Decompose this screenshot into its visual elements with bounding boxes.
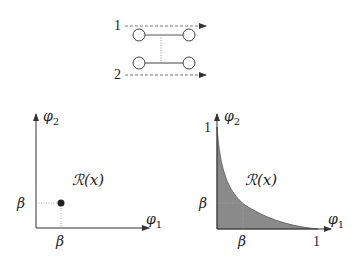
left-region-point [58,200,65,207]
right-x-tick-beta: β [237,233,246,249]
node-2a [133,57,145,69]
left-x-tick-beta: β [55,233,64,249]
node-1b [183,29,195,41]
line-2-label: 2 [114,67,121,82]
right-y-tick-one: 1 [204,120,211,135]
right-y-axis-label: φ2 [224,108,240,127]
right-x-tick-one: 1 [313,234,320,249]
left-region-label: ℛ(x) [72,171,104,189]
left-plot: φ2 φ1 β β ℛ(x) [16,108,162,249]
left-x-axis-label: φ1 [146,211,162,230]
right-y-tick-beta: β [198,195,207,211]
two-line-diagram: 1 2 [114,18,206,82]
node-2b [183,57,195,69]
left-y-tick-beta: β [16,195,25,211]
right-plot: φ2 φ1 1 β β 1 ℛ(x) [198,108,344,249]
right-region-label: ℛ(x) [245,171,277,189]
right-x-axis-label: φ1 [328,211,344,230]
node-1a [133,29,145,41]
figure-canvas: 1 2 φ2 φ1 β β ℛ(x) φ2 φ1 [0,0,356,260]
left-y-axis-label: φ2 [43,108,59,127]
line-1-label: 1 [114,18,121,33]
